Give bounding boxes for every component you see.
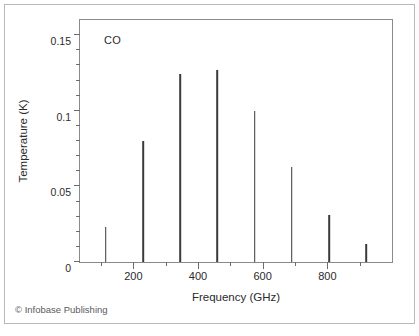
- y-axis-title: Temperature (K): [15, 19, 31, 263]
- x-axis-tick-label: 400: [189, 270, 207, 282]
- y-axis-tick-minor: [76, 201, 80, 202]
- figure-card: Temperature (K) CO 00.050.10.15 20040060…: [4, 4, 415, 324]
- y-axis-tick-major: [74, 34, 80, 35]
- x-axis-tick-major: [198, 262, 199, 269]
- y-axis-tick-minor: [76, 80, 80, 81]
- x-axis-tick-minor: [295, 262, 296, 266]
- x-axis-tick-label: 800: [318, 270, 336, 282]
- y-axis-title-text: Temperature (K): [17, 99, 29, 182]
- x-axis-title: Frequency (GHz): [79, 291, 393, 303]
- y-axis-tick-minor: [76, 125, 80, 126]
- spectral-line-spike: [105, 227, 107, 262]
- spectral-line-spike: [328, 215, 330, 262]
- spectral-line-spike: [179, 74, 181, 262]
- spike-series-layer: [80, 20, 392, 262]
- y-axis-tick-minor: [76, 231, 80, 232]
- spectral-line-spike: [217, 70, 219, 262]
- x-axis-tick-label: 600: [253, 270, 271, 282]
- y-axis-tick-minor: [76, 64, 80, 65]
- x-axis-tick-minor: [230, 262, 231, 266]
- x-axis-tick-minor: [101, 262, 102, 266]
- x-axis-tick-minor: [166, 262, 167, 266]
- y-axis-tick-minor: [76, 140, 80, 141]
- x-axis-tick-major: [133, 262, 134, 269]
- spectral-line-spike: [291, 167, 293, 262]
- publisher-credit: © Infobase Publishing: [15, 304, 108, 315]
- figure-root: Temperature (K) CO 00.050.10.15 20040060…: [0, 0, 419, 336]
- x-axis-tick-major: [327, 262, 328, 269]
- x-axis-tick-minor: [360, 262, 361, 266]
- spectral-line-spike: [142, 141, 144, 262]
- y-axis-tick-minor: [76, 155, 80, 156]
- y-axis-tick-minor: [76, 216, 80, 217]
- spectral-line-spike: [254, 111, 256, 262]
- plot-area: CO 00.050.10.15 200400600800: [79, 19, 393, 263]
- y-axis-tick-major: [74, 261, 80, 262]
- y-axis-tick-major: [74, 110, 80, 111]
- x-axis-tick-label: 200: [124, 270, 142, 282]
- y-axis-tick-minor: [76, 95, 80, 96]
- y-axis-tick-major: [74, 185, 80, 186]
- y-axis-tick-minor: [76, 170, 80, 171]
- x-axis-tick-major: [263, 262, 264, 269]
- y-axis-tick-minor: [76, 246, 80, 247]
- spectral-line-spike: [365, 244, 367, 262]
- y-axis-tick-minor: [76, 49, 80, 50]
